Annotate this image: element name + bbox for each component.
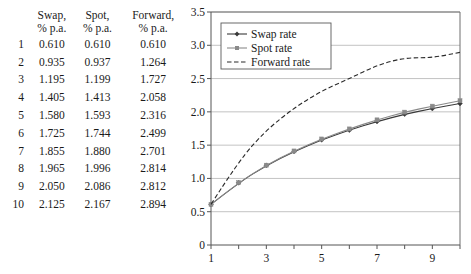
data-point-marker <box>347 127 351 131</box>
column-header-swap-line1: Swap, <box>29 9 75 22</box>
cell-forward: 2.316 <box>120 106 186 124</box>
cell-forward: 2.058 <box>120 88 186 106</box>
cell-spot: 1.593 <box>75 106 121 124</box>
cell-spot: 1.880 <box>75 142 121 160</box>
column-header-spot: Spot, % p.a. <box>75 9 121 35</box>
column-header-swap-line2: % p.a. <box>29 22 75 35</box>
y-tick-label: 2.5 <box>191 73 206 85</box>
data-point-marker <box>375 118 379 122</box>
y-axis-group: 00.51.01.52.02.53.03.5 <box>191 6 211 251</box>
cell-spot: 2.167 <box>75 195 121 213</box>
cell-spot: 1.199 <box>75 71 121 89</box>
data-point-marker <box>264 163 268 167</box>
table-row: 51.5801.5932.316 <box>0 106 186 124</box>
cell-spot: 0.937 <box>75 53 121 71</box>
x-tick-label: 3 <box>263 252 269 264</box>
cell-index: 4 <box>0 88 29 106</box>
cell-spot: 1.744 <box>75 124 121 142</box>
column-header-forward-line1: Forward, <box>120 9 186 22</box>
cell-spot: 1.996 <box>75 159 121 177</box>
table-header-row: Swap, % p.a. Spot, % p.a. Forward, % p.a… <box>0 9 186 35</box>
legend-marker-spot-rate <box>235 46 239 50</box>
cell-swap: 1.405 <box>29 88 75 106</box>
cell-swap: 1.725 <box>29 124 75 142</box>
data-point-marker <box>320 137 324 141</box>
cell-swap: 0.935 <box>29 53 75 71</box>
y-tick-label: 0.5 <box>191 206 206 218</box>
rates-table-panel: Swap, % p.a. Spot, % p.a. Forward, % p.a… <box>0 0 190 274</box>
column-header-spot-line2: % p.a. <box>75 22 121 35</box>
cell-swap: 1.580 <box>29 106 75 124</box>
x-tick-label: 1 <box>208 252 214 264</box>
cell-swap: 1.855 <box>29 142 75 160</box>
cell-swap: 1.965 <box>29 159 75 177</box>
cell-swap: 2.050 <box>29 177 75 195</box>
cell-swap: 2.125 <box>29 195 75 213</box>
cell-forward: 1.264 <box>120 53 186 71</box>
column-header-forward-line2: % p.a. <box>120 22 186 35</box>
column-header-swap: Swap, % p.a. <box>29 9 75 35</box>
data-point-marker <box>292 149 296 153</box>
cell-index: 6 <box>0 124 29 142</box>
legend-label-spot-rate: Spot rate <box>251 42 292 55</box>
y-tick-label: 3.5 <box>191 6 206 18</box>
cell-forward: 2.701 <box>120 142 186 160</box>
y-tick-label: 1.5 <box>191 139 206 151</box>
series-line-forward-rate <box>211 52 460 204</box>
rates-line-chart: 00.51.01.52.02.53.03.5 13579 Swap rateSp… <box>190 0 471 274</box>
series-line-swap-rate <box>211 104 460 205</box>
cell-swap: 0.610 <box>29 35 75 53</box>
column-header-spot-line1: Spot, <box>75 9 121 22</box>
cell-forward: 1.727 <box>120 71 186 89</box>
y-tick-label: 0 <box>199 239 205 251</box>
rates-chart-panel: 00.51.01.52.02.53.03.5 13579 Swap rateSp… <box>190 0 471 274</box>
table-row: 10.6100.6100.610 <box>0 35 186 53</box>
y-tick-label: 3.0 <box>191 39 206 51</box>
data-point-marker <box>430 104 434 108</box>
cell-index: 7 <box>0 142 29 160</box>
series-line-spot-rate <box>211 101 460 205</box>
x-tick-label: 9 <box>429 252 435 264</box>
cell-swap: 1.195 <box>29 71 75 89</box>
data-point-marker <box>403 110 407 114</box>
cell-spot: 0.610 <box>75 35 121 53</box>
data-point-marker <box>458 99 462 103</box>
x-tick-label: 5 <box>319 252 325 264</box>
table-row: 20.9350.9371.264 <box>0 53 186 71</box>
cell-spot: 1.413 <box>75 88 121 106</box>
legend-label-forward-rate: Forward rate <box>251 56 310 68</box>
table-row: 102.1252.1672.894 <box>0 195 186 213</box>
table-row: 92.0502.0862.812 <box>0 177 186 195</box>
cell-forward: 2.814 <box>120 159 186 177</box>
cell-index: 10 <box>0 195 29 213</box>
rates-table: Swap, % p.a. Spot, % p.a. Forward, % p.a… <box>0 9 186 213</box>
cell-index: 2 <box>0 53 29 71</box>
data-point-marker <box>237 181 241 185</box>
table-head: Swap, % p.a. Spot, % p.a. Forward, % p.a… <box>0 9 186 35</box>
cell-spot: 2.086 <box>75 177 121 195</box>
chart-legend: Swap rateSpot rateForward rate <box>221 23 331 69</box>
y-tick-label: 2.0 <box>191 106 206 118</box>
table-row: 71.8551.8802.701 <box>0 142 186 160</box>
cell-index: 3 <box>0 71 29 89</box>
table-row: 31.1951.1991.727 <box>0 71 186 89</box>
cell-forward: 2.499 <box>120 124 186 142</box>
x-tick-label: 7 <box>374 252 380 264</box>
cell-index: 8 <box>0 159 29 177</box>
cell-forward: 2.894 <box>120 195 186 213</box>
y-tick-label: 1.0 <box>191 172 206 184</box>
table-row: 81.9651.9962.814 <box>0 159 186 177</box>
column-header-index <box>0 9 29 35</box>
legend-label-swap-rate: Swap rate <box>251 28 297 41</box>
table-row: 61.7251.7442.499 <box>0 124 186 142</box>
cell-index: 5 <box>0 106 29 124</box>
table-row: 41.4051.4132.058 <box>0 88 186 106</box>
table-body: 10.6100.6100.61020.9350.9371.26431.1951.… <box>0 35 186 213</box>
cell-forward: 0.610 <box>120 35 186 53</box>
column-header-forward: Forward, % p.a. <box>120 9 186 35</box>
cell-forward: 2.812 <box>120 177 186 195</box>
data-series-group <box>209 52 463 206</box>
cell-index: 1 <box>0 35 29 53</box>
x-axis-group: 13579 <box>208 245 460 264</box>
figure-root: Swap, % p.a. Spot, % p.a. Forward, % p.a… <box>0 0 471 274</box>
